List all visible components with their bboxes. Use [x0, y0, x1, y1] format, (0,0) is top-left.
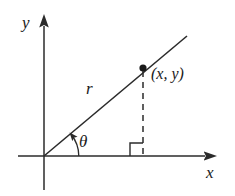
point-coordinates-label: (x, y) — [151, 66, 184, 82]
right-angle-marker — [130, 143, 143, 156]
point-marker-dot — [139, 64, 146, 71]
x-axis-label: x — [206, 164, 214, 181]
angle-arc — [71, 134, 79, 156]
y-axis-label: y — [22, 14, 30, 31]
terminal-ray — [44, 36, 187, 156]
polar-coordinates-diagram: y x r θ (x, y) — [0, 0, 235, 196]
diagram-canvas — [0, 0, 235, 196]
angle-theta-label: θ — [79, 133, 87, 150]
radius-label: r — [86, 80, 93, 97]
